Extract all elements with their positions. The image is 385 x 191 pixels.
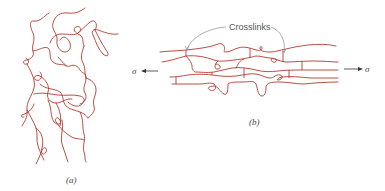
crosslinks-label: Crosslinks bbox=[229, 22, 271, 32]
panel-a-label: (a) bbox=[66, 175, 77, 185]
pointer-left bbox=[187, 27, 226, 49]
panel-a-chain-network bbox=[21, 8, 118, 164]
stress-arrow-left: σ bbox=[132, 66, 158, 76]
panel-b-crosslinks bbox=[176, 48, 302, 84]
elastomer-diagram: (a) Crosslinks σ bbox=[0, 0, 385, 191]
panel-b-chain-network bbox=[160, 44, 338, 96]
stress-left-symbol: σ bbox=[132, 66, 137, 76]
panel-b-label: (b) bbox=[249, 117, 260, 127]
stress-arrow-right: σ bbox=[344, 64, 370, 74]
pointer-right bbox=[271, 27, 284, 52]
stress-right-symbol: σ bbox=[365, 64, 370, 74]
